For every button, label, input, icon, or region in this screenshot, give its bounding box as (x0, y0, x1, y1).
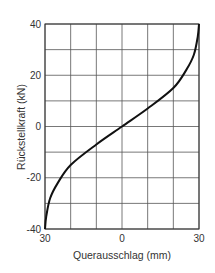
y-tick-label: 0 (35, 121, 41, 132)
y-tick-label: -20 (27, 172, 42, 183)
y-axis-label: Rückstellkraft (kN) (15, 84, 27, 170)
restoring-force-chart: 40200-20-40 30030 Querausschlag (mm) Rüc… (0, 0, 215, 273)
x-axis-label: Querausschlag (mm) (73, 249, 171, 261)
x-tick-label: 0 (119, 233, 125, 244)
x-tick-label: 30 (39, 233, 51, 244)
x-axis-ticks: 30030 (39, 233, 205, 244)
y-axis-ticks: 40200-20-40 (27, 19, 42, 235)
y-tick-label: 20 (30, 70, 42, 81)
y-tick-label: 40 (30, 19, 42, 30)
x-tick-label: 30 (193, 233, 205, 244)
